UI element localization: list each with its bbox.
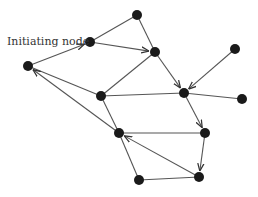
- edge-C-F: [155, 52, 181, 88]
- edge-E-I: [101, 96, 119, 133]
- network-diagram: Initiating node: [0, 0, 258, 197]
- edge-F-J: [184, 93, 202, 128]
- node-D: [23, 61, 33, 71]
- edge-B-C: [137, 15, 155, 52]
- edge-G-F: [189, 49, 235, 89]
- node-L: [194, 172, 204, 182]
- edge-I-D: [33, 70, 119, 133]
- node-F: [179, 88, 189, 98]
- edge-A-C: [90, 42, 149, 51]
- node-G: [230, 44, 240, 54]
- node-J: [200, 128, 210, 138]
- edge-K-I: [119, 133, 139, 180]
- edge-E-F: [101, 93, 184, 96]
- edge-J-L: [200, 133, 205, 171]
- edge-D-E: [28, 66, 101, 96]
- edge-A-B: [90, 15, 137, 42]
- node-B: [132, 10, 142, 20]
- edge-K-L: [139, 177, 199, 180]
- edge-E-C: [101, 52, 155, 96]
- node-E: [96, 91, 106, 101]
- initiating-node-label: Initiating node: [7, 35, 89, 48]
- edge-F-H: [184, 93, 242, 99]
- node-H: [237, 94, 247, 104]
- node-I: [114, 128, 124, 138]
- node-C: [150, 47, 160, 57]
- node-K: [134, 175, 144, 185]
